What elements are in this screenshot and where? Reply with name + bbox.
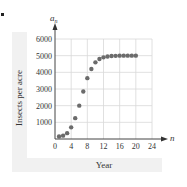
data-point bbox=[69, 125, 73, 129]
x-axis-variable: n bbox=[170, 133, 175, 143]
data-point bbox=[109, 54, 113, 58]
data-point bbox=[130, 53, 134, 57]
data-point bbox=[81, 89, 85, 93]
x-tick-label: 8 bbox=[85, 142, 89, 151]
data-point bbox=[89, 67, 93, 71]
y-tick-label: 5000 bbox=[36, 52, 52, 61]
scatter-chart: 04812162024100020003000400050006000 Inse… bbox=[0, 0, 187, 187]
data-point bbox=[97, 57, 101, 61]
y-tick-label: 1000 bbox=[36, 118, 52, 127]
data-point bbox=[61, 133, 65, 137]
y-tick-label: 6000 bbox=[36, 35, 52, 44]
data-point bbox=[65, 131, 69, 135]
x-tick-label: 16 bbox=[116, 142, 124, 151]
data-point bbox=[93, 60, 97, 64]
y-axis-variable: an bbox=[50, 13, 58, 24]
data-point bbox=[117, 53, 121, 57]
x-tick-label: 12 bbox=[100, 142, 108, 151]
y-tick-label: 2000 bbox=[36, 102, 52, 111]
data-point bbox=[105, 54, 109, 58]
data-point bbox=[126, 53, 130, 57]
axes bbox=[53, 23, 169, 142]
x-tick-label: 20 bbox=[132, 142, 140, 151]
data-point bbox=[101, 55, 105, 59]
data-point bbox=[73, 116, 77, 120]
x-tick-label: 0 bbox=[53, 142, 57, 151]
x-tick-label: 24 bbox=[148, 142, 156, 151]
tick-labels: 04812162024100020003000400050006000 bbox=[36, 35, 156, 151]
data-point bbox=[122, 53, 126, 57]
y-axis-title: Insects per acre bbox=[14, 70, 24, 126]
grid-lines bbox=[55, 39, 152, 139]
data-points bbox=[57, 53, 138, 138]
data-point bbox=[85, 76, 89, 80]
x-tick-label: 4 bbox=[69, 142, 73, 151]
x-axis-title: Year bbox=[96, 160, 113, 170]
y-tick-label: 4000 bbox=[36, 68, 52, 77]
y-tick-label: 3000 bbox=[36, 85, 52, 94]
data-point bbox=[77, 103, 81, 107]
data-point bbox=[113, 54, 117, 58]
data-point bbox=[134, 53, 138, 57]
data-point bbox=[57, 134, 61, 138]
